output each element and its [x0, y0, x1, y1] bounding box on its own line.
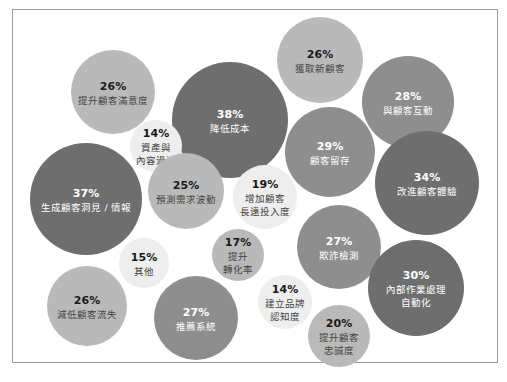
bubble-value-label: 20%: [326, 317, 352, 330]
bubble-category-label: 建立品牌: [265, 298, 305, 309]
bubble-value-label: 27%: [326, 235, 352, 248]
bubble-value-label: 28%: [395, 90, 421, 103]
bubble-value-label: 14%: [143, 127, 169, 140]
bubble-category-label: 資產與: [141, 142, 171, 153]
bubble-value-label: 30%: [403, 269, 429, 282]
bubble-category-label: 生成顧客洞見 / 情報: [41, 202, 130, 213]
bubble-value-label: 26%: [100, 80, 126, 93]
bubble: 27%欺詐檢測: [297, 205, 381, 289]
bubble-category-label: 欺詐檢測: [319, 250, 359, 261]
bubble: 14%建立品牌認知度: [258, 275, 312, 329]
bubble-category-label: 認知度: [270, 311, 300, 322]
bubble-category-label: 與顧客互動: [383, 105, 433, 116]
bubble-category-label: 增加顧客: [245, 193, 285, 204]
bubble-value-label: 26%: [74, 294, 100, 307]
bubble-value-label: 15%: [131, 251, 157, 264]
bubble: 15%其他: [119, 238, 169, 288]
bubble-category-label: 獲取新顧客: [295, 63, 345, 74]
bubble-category-label: 預測需求波動: [156, 194, 216, 205]
bubble: 27%推薦系統: [154, 276, 238, 360]
bubble: 17%提升轉化率: [212, 229, 264, 281]
bubble-category-label: 顧客留存: [310, 155, 350, 166]
bubble: 30%內部作業處理自動化: [368, 240, 464, 336]
bubble-value-label: 38%: [217, 108, 243, 121]
bubble: 19%增加顧客長遠投入度: [233, 165, 297, 229]
bubble: 26%提升顧客滿意度: [71, 50, 155, 134]
bubble: 29%顧客留存: [285, 107, 375, 197]
bubble-category-label: 自動化: [401, 297, 431, 308]
bubble-value-label: 17%: [225, 236, 251, 249]
bubble-category-label: 忠誠度: [324, 345, 354, 356]
bubble-category-label: 提升顧客滿意度: [78, 95, 148, 106]
bubble: 34%改進顧客體驗: [375, 131, 479, 235]
bubble-category-label: 內部作業處理: [386, 284, 446, 295]
bubble: 25%預測需求波動: [148, 153, 224, 229]
bubble-value-label: 34%: [414, 171, 440, 184]
bubble-value-label: 14%: [272, 283, 298, 296]
bubble: 26%減低顧客流失: [47, 266, 127, 346]
bubble-category-label: 降低成本: [210, 123, 250, 134]
bubble-category-label: 轉化率: [223, 264, 253, 275]
bubble-value-label: 25%: [173, 179, 199, 192]
bubble-value-label: 26%: [307, 48, 333, 61]
bubble-category-label: 推薦系統: [176, 321, 216, 332]
bubble-category-label: 提升: [228, 251, 248, 262]
bubble-value-label: 19%: [252, 178, 278, 191]
bubble: 26%獲取新顧客: [277, 17, 363, 103]
bubble-category-label: 改進顧客體驗: [397, 186, 457, 197]
bubble: 20%提升顧客忠誠度: [308, 305, 370, 367]
bubble-value-label: 37%: [73, 187, 99, 200]
bubble: 37%生成顧客洞見 / 情報: [30, 143, 142, 255]
bubble-category-label: 其他: [134, 266, 154, 277]
bubble-category-label: 減低顧客流失: [57, 309, 117, 320]
bubble-category-label: 長遠投入度: [240, 206, 290, 217]
bubble-category-label: 提升顧客: [319, 332, 359, 343]
bubble-value-label: 29%: [317, 140, 343, 153]
bubble-value-label: 27%: [183, 306, 209, 319]
bubble-chart: 26%提升顧客滿意度38%降低成本26%獲取新顧客28%與顧客互動14%資產與內…: [0, 0, 507, 382]
